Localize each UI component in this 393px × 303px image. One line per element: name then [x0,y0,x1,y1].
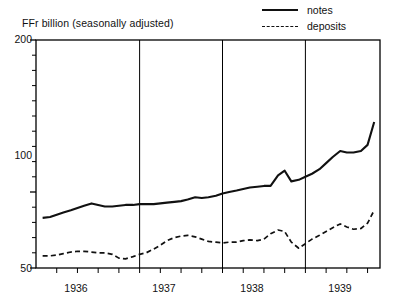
chart-figure: FFr billion (seasonally adjusted) notes … [0,0,393,303]
x-axis-tick-1939: 1939 [320,282,360,294]
series-line-notes [43,122,375,218]
series-line-deposits [43,210,375,259]
y-axis-tick-50: 50 [4,262,32,274]
x-axis-tick-1937: 1937 [144,282,184,294]
plot-frame [36,40,380,268]
chart-plot-area [0,0,393,303]
y-axis-tick-100: 100 [4,149,32,161]
y-axis-tick-200: 200 [4,33,32,45]
x-axis-tick-1936: 1936 [56,282,96,294]
x-axis-tick-1938: 1938 [232,282,272,294]
